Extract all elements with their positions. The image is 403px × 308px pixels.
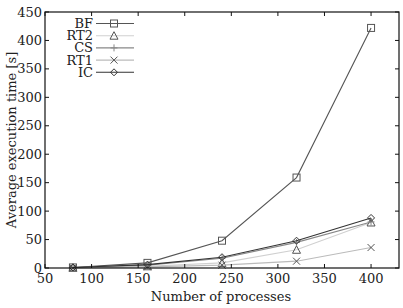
x-tick-label: 100 — [79, 271, 104, 286]
x-axis-label: Number of processes — [151, 289, 291, 304]
y-tick-label: 50 — [25, 232, 42, 247]
y-axis-label: Average execution time [s] — [4, 52, 19, 229]
y-tick-label: 400 — [17, 33, 42, 48]
y-tick-label: 0 — [34, 261, 42, 276]
x-tick-label: 300 — [265, 271, 290, 286]
legend-item-rt1: RT1 — [66, 53, 134, 68]
x-tick-label: 250 — [219, 271, 244, 286]
line-chart: 5010015020025030035040005010015020025030… — [0, 0, 403, 308]
x-tick-label: 400 — [359, 271, 384, 286]
y-tick-label: 300 — [17, 90, 42, 105]
y-tick-label: 250 — [17, 118, 42, 133]
y-tick-label: 450 — [17, 5, 42, 20]
legend-label: IC — [78, 65, 93, 80]
plot-frame — [45, 12, 399, 268]
legend: BFRT2CSRT1IC — [66, 16, 134, 80]
y-tick-label: 200 — [17, 147, 42, 162]
series-rt2 — [69, 218, 375, 271]
x-tick-label: 350 — [312, 271, 337, 286]
legend-item-ic: IC — [78, 65, 134, 80]
y-tick-label: 100 — [17, 204, 42, 219]
x-tick-label: 200 — [172, 271, 197, 286]
y-tick-label: 150 — [17, 175, 42, 190]
y-tick-label: 350 — [17, 61, 42, 76]
x-tick-label: 150 — [126, 271, 151, 286]
